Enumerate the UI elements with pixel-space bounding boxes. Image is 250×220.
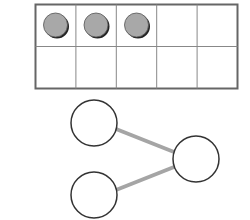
- bond-connector-bottom: [116, 167, 174, 190]
- diagram-canvas: [0, 0, 250, 220]
- part-circle-bottom[interactable]: [71, 172, 117, 218]
- part-circle-top[interactable]: [71, 100, 117, 146]
- whole-circle[interactable]: [173, 136, 219, 182]
- number-bond: [71, 100, 219, 218]
- bond-connector-top: [116, 129, 174, 152]
- ten-frame: [36, 5, 238, 89]
